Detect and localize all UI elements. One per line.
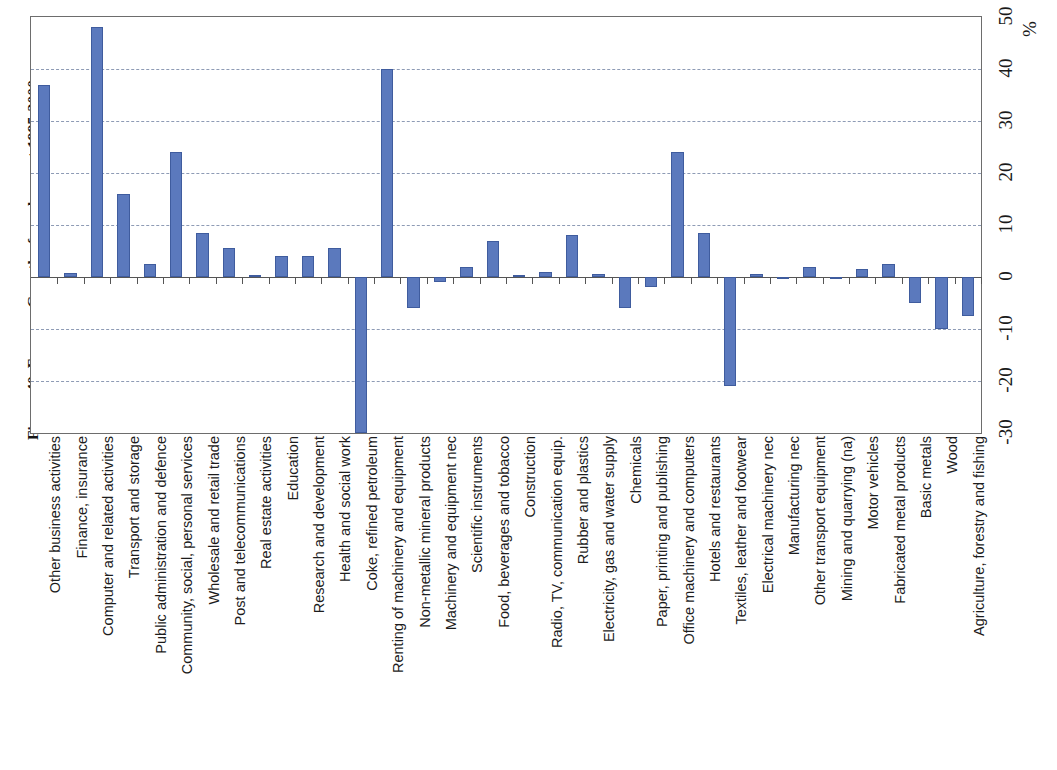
category-label-text: Scientific instruments bbox=[470, 436, 485, 573]
category-label: Finance, insurance bbox=[75, 436, 90, 559]
chart-bar bbox=[539, 272, 551, 277]
category-label: Transport and storage bbox=[127, 436, 142, 578]
category-label-text: Non-metallic mineral products bbox=[418, 436, 433, 628]
axis-tick bbox=[453, 277, 454, 284]
axis-tick bbox=[374, 277, 375, 284]
axis-tick bbox=[269, 277, 270, 284]
chart-bar bbox=[645, 277, 657, 287]
category-label: Manufacturing nec bbox=[787, 436, 802, 555]
category-label-text: Chemicals bbox=[629, 436, 644, 504]
category-label: Other business activities bbox=[48, 436, 63, 593]
chart-bar bbox=[962, 277, 974, 316]
chart-bar bbox=[249, 275, 261, 277]
axis-tick bbox=[612, 277, 613, 284]
category-label: Electricity, gas and water supply bbox=[602, 436, 617, 642]
y-axis-tick-label: 10 bbox=[995, 200, 1017, 248]
category-label: Chemicals bbox=[629, 436, 644, 504]
axis-tick bbox=[480, 277, 481, 284]
axis-tick bbox=[638, 277, 639, 284]
chart-bar bbox=[909, 277, 921, 303]
category-label-text: Community, social, personal services bbox=[180, 436, 195, 674]
category-label: Motor vehicles bbox=[866, 436, 881, 529]
chart-bar bbox=[434, 277, 446, 282]
axis-tick bbox=[427, 277, 428, 284]
chart-bar bbox=[487, 241, 499, 277]
chart-bar bbox=[117, 194, 129, 277]
chart-bar bbox=[750, 274, 762, 277]
axis-tick bbox=[163, 277, 164, 284]
category-label-text: Machinery and equipment nec bbox=[444, 436, 459, 630]
chart-bar bbox=[724, 277, 736, 386]
chart-bar bbox=[566, 235, 578, 277]
axis-tick bbox=[585, 277, 586, 284]
chart-bar bbox=[407, 277, 419, 308]
category-label: Rubber and plastics bbox=[576, 436, 591, 564]
y-axis-tick-label: -30 bbox=[995, 408, 1017, 456]
y-axis-unit-label: % bbox=[1019, 21, 1041, 37]
category-label: Textiles, leather and footwear bbox=[734, 436, 749, 625]
category-label: Food, beverages and tobacco bbox=[497, 436, 512, 628]
category-label-text: Other business activities bbox=[48, 436, 63, 593]
category-label: Post and telecommunications bbox=[233, 436, 248, 625]
axis-tick bbox=[57, 277, 58, 284]
y-axis-tick-label: 30 bbox=[995, 96, 1017, 144]
category-label: Other transport equipment bbox=[813, 436, 828, 605]
category-label: Education bbox=[286, 436, 301, 501]
chart-bar bbox=[619, 277, 631, 308]
category-label-text: Manufacturing nec bbox=[787, 436, 802, 555]
chart-bar bbox=[513, 275, 525, 277]
y-axis-tick-label: 50 bbox=[995, 0, 1017, 40]
category-label: Fabricated metal products bbox=[893, 436, 908, 604]
axis-tick bbox=[823, 277, 824, 284]
category-label: Construction bbox=[523, 436, 538, 517]
category-label: Community, social, personal services bbox=[180, 436, 195, 674]
category-label: Office machinery and computers bbox=[682, 436, 697, 644]
category-label: Coke, refined petroleum bbox=[365, 436, 380, 591]
chart-bar bbox=[803, 267, 815, 277]
category-label: Wholesale and retail trade bbox=[207, 436, 222, 604]
y-axis-tick-label: 0 bbox=[995, 252, 1017, 300]
chart-bar bbox=[64, 273, 76, 277]
category-label: Scientific instruments bbox=[470, 436, 485, 573]
category-label-text: Coke, refined petroleum bbox=[365, 436, 380, 591]
category-label: Paper, printing and publishing bbox=[655, 436, 670, 627]
category-label-text: Computer and related activities bbox=[101, 436, 116, 636]
category-label: Public administration and defence bbox=[154, 436, 169, 654]
axis-tick bbox=[84, 277, 85, 284]
category-label-text: Mining and quarrying (na) bbox=[840, 436, 855, 601]
category-label: Computer and related activities bbox=[101, 436, 116, 636]
chart-bar bbox=[355, 277, 367, 433]
axis-tick bbox=[691, 277, 692, 284]
axis-tick bbox=[664, 277, 665, 284]
axis-tick bbox=[875, 277, 876, 284]
category-label: Real estate activities bbox=[259, 436, 274, 569]
category-label: Health and social work bbox=[338, 436, 353, 582]
chart-bar bbox=[592, 274, 604, 277]
axis-tick bbox=[532, 277, 533, 284]
axis-tick bbox=[216, 277, 217, 284]
axis-tick bbox=[902, 277, 903, 284]
category-label-text: Electricity, gas and water supply bbox=[602, 436, 617, 642]
category-label-text: Radio, TV, communication equip. bbox=[550, 436, 565, 648]
category-label-text: Research and development bbox=[312, 436, 327, 613]
category-label: Research and development bbox=[312, 436, 327, 613]
chart-bar bbox=[777, 277, 789, 279]
axis-tick bbox=[506, 277, 507, 284]
category-label-text: Wood bbox=[945, 436, 960, 474]
chart-bar bbox=[381, 69, 393, 277]
chart-bar bbox=[38, 85, 50, 277]
y-axis: % -30-20-1001020304050 bbox=[982, 16, 1057, 434]
category-label-text: Other transport equipment bbox=[813, 436, 828, 605]
category-label-text: Paper, printing and publishing bbox=[655, 436, 670, 627]
category-label-text: Renting of machinery and equipment bbox=[391, 436, 406, 673]
category-label-text: Hotels and restaurants bbox=[708, 436, 723, 582]
axis-tick bbox=[796, 277, 797, 284]
chart-bar bbox=[144, 264, 156, 277]
axis-tick bbox=[400, 277, 401, 284]
gridline bbox=[31, 381, 981, 382]
category-label-text: Construction bbox=[523, 436, 538, 517]
axis-tick bbox=[137, 277, 138, 284]
chart-bar bbox=[830, 277, 842, 279]
category-label: Mining and quarrying (na) bbox=[840, 436, 855, 601]
category-label-text: Motor vehicles bbox=[866, 436, 881, 529]
